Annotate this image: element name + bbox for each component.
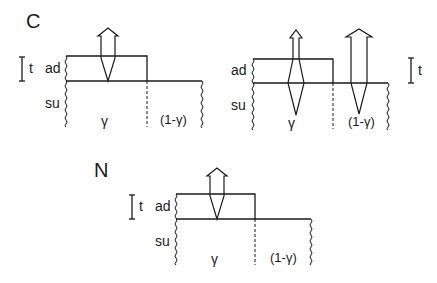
wavy-edge-right [387,83,389,130]
adsorbate-label: ad [231,63,247,77]
substrate-label: su [45,96,60,110]
uncovered-fraction-label: (1-γ) [160,113,187,126]
covered-fraction-label: γ [101,114,108,128]
uncovered-fraction-label: (1-γ) [348,115,375,128]
probe-arrow-uncovered [346,29,372,114]
thickness-bracket-icon [129,195,135,219]
panel-c-right [252,29,414,130]
uncovered-fraction-label: (1-γ) [270,251,297,264]
covered-fraction-label: γ [211,252,218,266]
wavy-edge-left [175,194,177,265]
thickness-label: t [418,63,422,77]
wavy-edge-right [201,81,203,128]
adlayer-block [253,59,333,83]
wavy-edge-right [310,219,312,265]
wavy-edge-left [65,56,67,127]
thickness-label: t [29,61,33,75]
wavy-edge-left [252,59,254,130]
panel-label-n: N [94,160,108,180]
probe-arrow-covered [288,30,304,115]
panel-label-c: C [26,11,40,31]
substrate-label: su [155,234,170,248]
covered-fraction-label: γ [288,116,295,130]
thickness-label: t [139,199,143,213]
adsorbate-label: ad [45,61,61,75]
probe-arrow [98,28,118,81]
thickness-bracket-icon [408,58,414,83]
thickness-bracket-icon [19,57,25,81]
adsorbate-label: ad [155,199,171,213]
diagram-canvas [0,0,437,283]
substrate-label: su [231,98,246,112]
